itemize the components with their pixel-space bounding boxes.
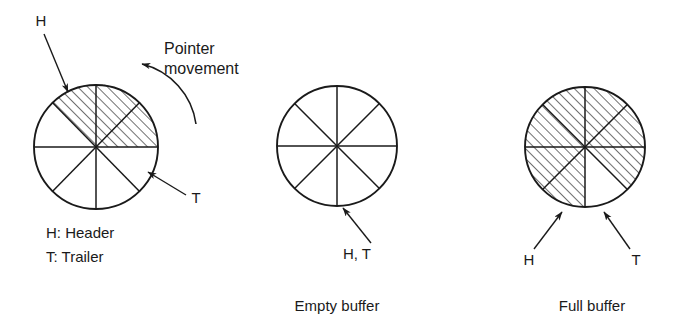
trailer-leader-line [148, 172, 186, 195]
sector-dividers [34, 85, 158, 209]
header-leader-line [44, 34, 68, 92]
caption-full-buffer: Full buffer [559, 297, 625, 314]
trailer-leader-line [604, 212, 630, 249]
circular-buffer-diagram: H T Pointer movement H: Header T: Traile… [0, 0, 674, 329]
header-trailer-label: H, T [343, 245, 371, 262]
caption-empty-buffer: Empty buffer [295, 297, 380, 314]
sector-dividers [525, 87, 645, 207]
trailer-label: T [191, 189, 200, 206]
trailer-label: T [631, 251, 640, 268]
diagram-full-buffer: H T Full buffer [524, 87, 645, 314]
pointer-movement-label-line1: Pointer [164, 40, 215, 57]
header-trailer-leader-line [343, 208, 371, 243]
header-label: H [36, 12, 47, 29]
diagram-canvas: H T Pointer movement H: Header T: Traile… [0, 0, 674, 329]
header-label: H [524, 251, 535, 268]
sector-dividers [277, 86, 397, 206]
legend-header-line: H: Header [46, 224, 114, 241]
diagram-empty-buffer: H, T Empty buffer [277, 86, 397, 314]
diagram-partially-filled-buffer: H T Pointer movement H: Header T: Traile… [34, 12, 239, 265]
pointer-movement-label-line2: movement [164, 60, 239, 77]
legend-trailer-line: T: Trailer [46, 248, 104, 265]
header-leader-line [534, 212, 562, 249]
